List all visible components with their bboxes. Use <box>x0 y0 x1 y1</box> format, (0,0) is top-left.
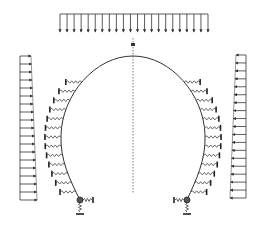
spring-icon <box>203 117 219 119</box>
spring-icon <box>54 99 70 101</box>
spring-icon <box>205 145 221 147</box>
spring-icon <box>52 172 68 174</box>
top-distributed-load <box>60 14 208 32</box>
spring-icon <box>204 127 220 129</box>
spring-icon <box>200 108 216 110</box>
spring-icon <box>196 99 212 101</box>
right-ground-springs <box>184 79 221 195</box>
spring-icon <box>50 108 66 110</box>
pin-icon <box>184 197 190 203</box>
spring-icon <box>49 163 65 165</box>
spring-icon <box>45 145 61 147</box>
crown-marker-icon <box>131 43 135 46</box>
spring-icon <box>195 182 211 184</box>
spring-icon <box>203 154 219 156</box>
spring-icon <box>198 172 214 174</box>
right-base-support <box>174 197 191 214</box>
spring-icon <box>191 90 207 92</box>
spring-icon <box>184 81 200 83</box>
pin-icon <box>77 197 83 203</box>
tunnel-load-diagram <box>0 0 264 232</box>
spring-icon <box>205 136 221 138</box>
left-base-support <box>76 197 93 214</box>
spring-icon <box>201 163 217 165</box>
right-side-distributed-load <box>230 55 246 198</box>
left-ground-springs <box>45 79 82 195</box>
left-side-distributed-load <box>20 56 37 200</box>
spring-icon <box>56 182 72 184</box>
spring-icon <box>66 81 82 83</box>
spring-icon <box>60 191 76 193</box>
spring-icon <box>47 117 63 119</box>
spring-icon <box>45 136 61 138</box>
spring-icon <box>47 154 63 156</box>
spring-icon <box>59 90 75 92</box>
spring-icon <box>191 191 207 193</box>
spring-icon <box>45 127 61 129</box>
